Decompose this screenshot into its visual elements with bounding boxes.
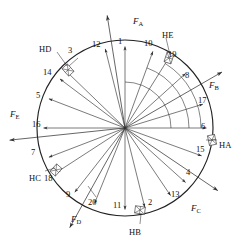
bearing-label-HB: HB: [129, 228, 141, 237]
node-number-13: 13: [171, 190, 180, 199]
force-subscript: B: [215, 84, 219, 91]
bearing-HB: [135, 206, 146, 215]
node-number-3: 3: [68, 46, 72, 55]
force-label-FE: FE: [10, 110, 19, 119]
bearing-label-HD: HD: [39, 45, 51, 54]
force-vector-FC: [125, 128, 218, 191]
force-subscript: A: [139, 20, 144, 27]
node-number-1: 1: [118, 37, 122, 46]
node-number-20: 20: [88, 198, 97, 207]
ray-vector-12: [105, 49, 125, 128]
force-label-FD: FD: [71, 215, 81, 224]
leader-HB: [140, 214, 141, 224]
force-label-FB: FB: [209, 81, 219, 90]
node-number-10: 10: [144, 39, 153, 48]
force-subscript: D: [77, 218, 82, 225]
node-number-5: 5: [36, 91, 40, 100]
bearing-label-HA: HA: [219, 141, 231, 150]
bearing-label-HC: HC: [29, 174, 41, 183]
force-base: F: [71, 214, 77, 224]
node-number-19: 19: [168, 50, 177, 59]
node-number-6: 6: [201, 122, 205, 131]
node-number-14: 14: [43, 68, 52, 77]
ray-vector-4: [125, 128, 186, 183]
node-number-7: 7: [31, 148, 35, 157]
node-number-18: 18: [44, 174, 53, 183]
ray-vector-5: [49, 99, 125, 128]
force-vector-FB: [125, 72, 222, 128]
node-number-8: 8: [185, 71, 189, 80]
force-base: F: [191, 203, 197, 213]
force-vector-FD: [70, 128, 125, 228]
node-number-12: 12: [92, 40, 101, 49]
ray-vector-20: [94, 128, 125, 204]
ray-vector-3: [66, 71, 125, 128]
node-number-15: 15: [196, 145, 205, 154]
ray-vector-8: [125, 73, 186, 128]
force-base: F: [133, 16, 139, 26]
ray-vector-14: [60, 79, 125, 128]
angle-arc-mid: [147, 68, 189, 128]
force-subscript: E: [16, 113, 20, 120]
node-number-17: 17: [198, 96, 207, 105]
bearing-HD: [62, 64, 74, 76]
force-vector-FE: [10, 128, 125, 140]
node-number-11: 11: [113, 201, 121, 210]
force-base: F: [209, 80, 215, 90]
angle-arc-outer: [165, 64, 201, 128]
leader-HD: [57, 52, 67, 66]
force-label-FC: FC: [191, 204, 201, 213]
force-base: F: [10, 109, 16, 119]
node-number-9: 9: [66, 190, 70, 199]
bearing-label-HE: HE: [162, 31, 173, 40]
force-vector-FA: [107, 15, 125, 128]
ray-vector-2: [125, 128, 145, 207]
node-number-4: 4: [186, 168, 190, 177]
ray-vector-17: [125, 104, 203, 128]
ray-vector-15: [125, 128, 202, 156]
node-number-2: 2: [148, 198, 152, 207]
ray-vector-13: [125, 128, 171, 196]
node-number-16: 16: [32, 120, 41, 129]
force-subscript: C: [197, 207, 201, 214]
force-label-FA: FA: [133, 17, 143, 26]
radial-force-diagram: 1123145167189201121341561781910FAFBFCFDF…: [0, 0, 249, 248]
